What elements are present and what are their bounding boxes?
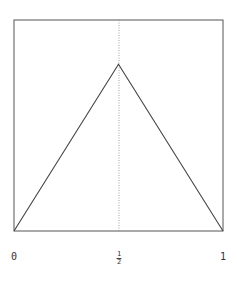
x-tick-half: 1 2 xyxy=(117,248,122,266)
tent-map-plot xyxy=(0,0,237,281)
plot-frame xyxy=(14,20,223,231)
x-tick-half-numerator: 1 xyxy=(117,251,121,258)
x-tick-0: 0 xyxy=(11,252,17,262)
x-tick-half-denominator: 2 xyxy=(117,259,121,266)
tent-function-line xyxy=(14,64,223,231)
x-tick-1: 1 xyxy=(220,252,226,262)
